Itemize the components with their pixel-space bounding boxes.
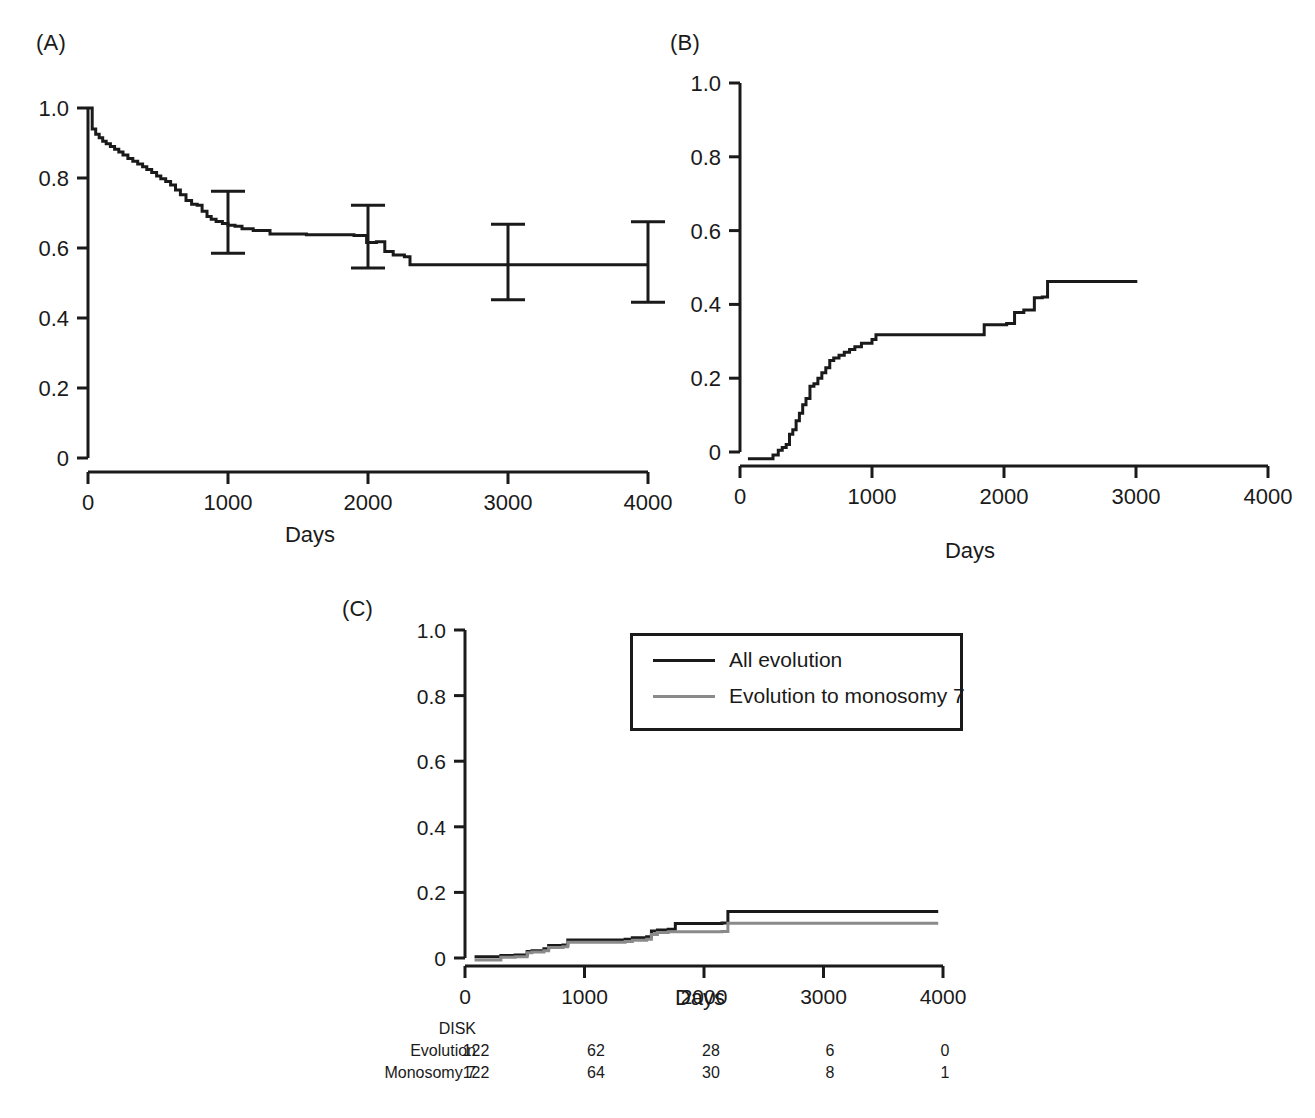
x-axis-tick-label: 4000 <box>1244 484 1293 509</box>
risk-cell-evolution-3000: 6 <box>807 1042 853 1060</box>
risk-cell-monosomy7-4000: 1 <box>922 1064 968 1082</box>
risk-cell-monosomy7-0: 122 <box>453 1064 499 1082</box>
x-axis-tick-label: 4000 <box>920 985 967 1008</box>
x-axis-tick-label: 3000 <box>1112 484 1161 509</box>
risk-cell-monosomy7-2000: 30 <box>688 1064 734 1082</box>
x-axis-tick-label: 0 <box>82 490 94 515</box>
y-axis-tick-label: 0 <box>57 446 69 471</box>
y-axis-tick-label: 1.0 <box>38 96 69 121</box>
legend-label-all-evolution: All evolution <box>729 648 842 672</box>
panel-a: (A) 00.20.40.60.81.001000200030004000 Da… <box>0 0 660 575</box>
panel-c-xaxis-title: Days <box>630 985 770 1011</box>
y-axis-tick-label: 0.2 <box>690 366 721 391</box>
error-bar-3 <box>491 224 525 300</box>
x-axis-tick-label: 1000 <box>204 490 253 515</box>
risk-cell-evolution-4000: 0 <box>922 1042 968 1060</box>
x-axis-tick-label: 3000 <box>800 985 847 1008</box>
panel-b: (B) 00.20.40.60.81.001000200030004000 Da… <box>660 0 1315 575</box>
panel-a-plot: 00.20.40.60.81.001000200030004000 <box>0 0 660 520</box>
x-axis-tick-label: 1000 <box>848 484 897 509</box>
y-axis-tick-label: 0 <box>434 947 446 970</box>
y-axis-tick-label: 0.8 <box>690 145 721 170</box>
x-axis-tick-label: 1000 <box>561 985 608 1008</box>
risk-cell-evolution-2000: 28 <box>688 1042 734 1060</box>
x-axis-tick-label: 2000 <box>344 490 393 515</box>
risk-cell-evolution-0: 122 <box>453 1042 499 1060</box>
y-axis-tick-label: 0.8 <box>417 685 446 708</box>
x-axis-tick-label: 3000 <box>484 490 533 515</box>
x-axis-tick-label: 0 <box>459 985 471 1008</box>
panel-c: (C) 00.20.40.60.81.001000200030004000 Da… <box>330 580 1010 1118</box>
panel-b-plot: 00.20.40.60.81.001000200030004000 <box>660 0 1315 520</box>
y-axis-tick-label: 0.2 <box>38 376 69 401</box>
legend-swatch-all-evolution <box>653 659 715 662</box>
y-axis-tick-label: 0.4 <box>417 816 447 839</box>
y-axis-tick-label: 0.6 <box>690 219 721 244</box>
y-axis-tick-label: 0.8 <box>38 166 69 191</box>
y-axis-tick-label: 0 <box>709 440 721 465</box>
y-axis-tick-label: 1.0 <box>690 71 721 96</box>
y-axis-tick-label: 0.2 <box>417 881 446 904</box>
risk-table-title: DISK <box>330 1020 476 1038</box>
panel-b-xaxis-title: Days <box>900 538 1040 564</box>
legend: All evolution Evolution to monosomy 7 <box>630 633 963 731</box>
legend-item-monosomy-7: Evolution to monosomy 7 <box>653 684 965 708</box>
legend-swatch-monosomy-7 <box>653 695 715 698</box>
x-axis-tick-label: 2000 <box>980 484 1029 509</box>
km-curve-1 <box>748 282 1137 459</box>
legend-item-all-evolution: All evolution <box>653 648 842 672</box>
legend-label-monosomy-7: Evolution to monosomy 7 <box>729 684 965 708</box>
km-curve-2 <box>475 923 939 960</box>
y-axis-tick-label: 0.4 <box>38 306 69 331</box>
panel-a-xaxis-title: Days <box>240 522 380 548</box>
y-axis-tick-label: 0.4 <box>690 292 721 317</box>
y-axis-tick-label: 0.6 <box>417 750 446 773</box>
y-axis-tick-label: 1.0 <box>417 619 446 642</box>
risk-cell-evolution-1000: 62 <box>573 1042 619 1060</box>
y-axis-tick-label: 0.6 <box>38 236 69 261</box>
x-axis-tick-label: 0 <box>734 484 746 509</box>
risk-cell-monosomy7-1000: 64 <box>573 1064 619 1082</box>
risk-cell-monosomy7-3000: 8 <box>807 1064 853 1082</box>
numbers-at-risk-table: DISK Evolution 122 62 28 6 0 Monosomy 7 … <box>330 1020 1010 1090</box>
